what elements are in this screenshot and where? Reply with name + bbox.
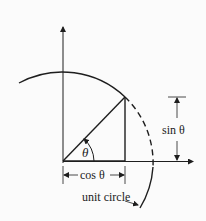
sin-label: sin θ [162,123,185,137]
unit-circle-diagram: θ cos θ sin θ unit circle [0,0,206,221]
unit-circle-arc-dashed [125,97,153,167]
angle-label: θ [82,145,89,160]
unit-circle-arc-tail [140,167,153,208]
unit-circle-label: unit circle [82,190,130,204]
unit-circle-arc-solid [19,72,125,97]
cos-label: cos θ [80,168,105,182]
radius-line [63,97,125,161]
